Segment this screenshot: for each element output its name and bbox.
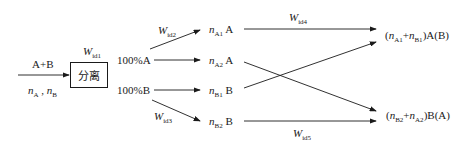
w-id2-label: Wid2 [158,24,176,41]
w-id3-label: Wid3 [154,110,172,127]
w4-symbol: W [289,11,298,23]
w2-sub: id2 [167,31,176,39]
w5-symbol: W [293,127,302,139]
n-sub: B1 [215,91,223,99]
separator-work-label: Wid1 [83,45,101,62]
n-sub: A2 [215,61,224,69]
separator-label: 分离 [78,67,100,83]
n-sub: A1 [215,30,224,38]
w3-symbol: W [154,110,163,122]
species: B [225,115,232,127]
flow-separator: , [39,84,47,96]
n2-sub: A2 [415,116,424,124]
stream-na1: nA1 A [209,23,233,40]
arrow-nb1-to-top-mix [244,42,376,88]
separation-mixing-diagram: A+B nA , nB Wid1 分离 100%A 100%B Wid2 Wid… [0,0,465,144]
pure-b-label: 100%B [117,84,150,96]
input-label: A+B [32,58,53,70]
w-id4-label: Wid4 [289,11,307,28]
separator-box: 分离 [70,62,108,88]
stream-na2: nA2 A [209,54,233,71]
arrow-na2-to-bottom-mix [244,62,376,111]
pure-a-label: 100%A [117,54,151,66]
species: B [225,84,232,96]
input-flow-label: nA , nB [28,84,57,101]
n1-sub: A1 [394,36,403,44]
w4-sub: id4 [298,18,307,26]
w-id5-label: Wid5 [293,127,311,144]
species: A [225,23,233,35]
w-symbol: W [83,45,92,57]
stream-nb2: nB2 B [209,115,233,132]
n2-sub: B1 [414,36,422,44]
w5-sub: id5 [302,134,311,142]
paren-close: )B(A) [424,109,450,121]
stream-nb1: nB1 B [209,84,233,101]
n-sub: B2 [215,122,223,130]
paren-close: )A(B) [423,29,449,41]
mixture-top: (nA1+nB1)A(B) [385,29,449,46]
species: A [225,54,233,66]
mixture-bottom: (nB2+nA2)B(A) [386,109,450,126]
n-b-sub: B [52,91,57,99]
w-sub: id1 [92,52,101,60]
w2-symbol: W [158,24,167,36]
w3-sub: id3 [163,117,172,125]
